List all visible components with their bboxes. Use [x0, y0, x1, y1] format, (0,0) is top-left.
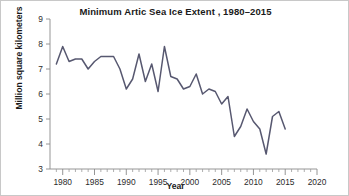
data-series: [56, 47, 285, 155]
chart-figure: Minimum Artic Sea Ice Extent , 1980–2015…: [0, 0, 349, 196]
svg-text:3: 3: [38, 164, 43, 174]
svg-text:2000: 2000: [181, 177, 200, 187]
svg-text:1990: 1990: [117, 177, 136, 187]
svg-text:1995: 1995: [149, 177, 168, 187]
svg-text:2010: 2010: [244, 177, 263, 187]
svg-text:6: 6: [38, 89, 43, 99]
svg-text:4: 4: [38, 139, 43, 149]
y-axis: 3456789: [38, 14, 50, 174]
x-axis: 198019851990199520002005201020152020: [50, 169, 327, 187]
svg-text:1980: 1980: [53, 177, 72, 187]
svg-text:1985: 1985: [85, 177, 104, 187]
svg-text:7: 7: [38, 64, 43, 74]
plot-area: 3456789 19801985199019952000200520102015…: [1, 1, 349, 196]
svg-text:2005: 2005: [212, 177, 231, 187]
svg-text:9: 9: [38, 14, 43, 24]
svg-text:2020: 2020: [308, 177, 327, 187]
svg-text:8: 8: [38, 39, 43, 49]
svg-text:5: 5: [38, 114, 43, 124]
svg-text:2015: 2015: [276, 177, 295, 187]
